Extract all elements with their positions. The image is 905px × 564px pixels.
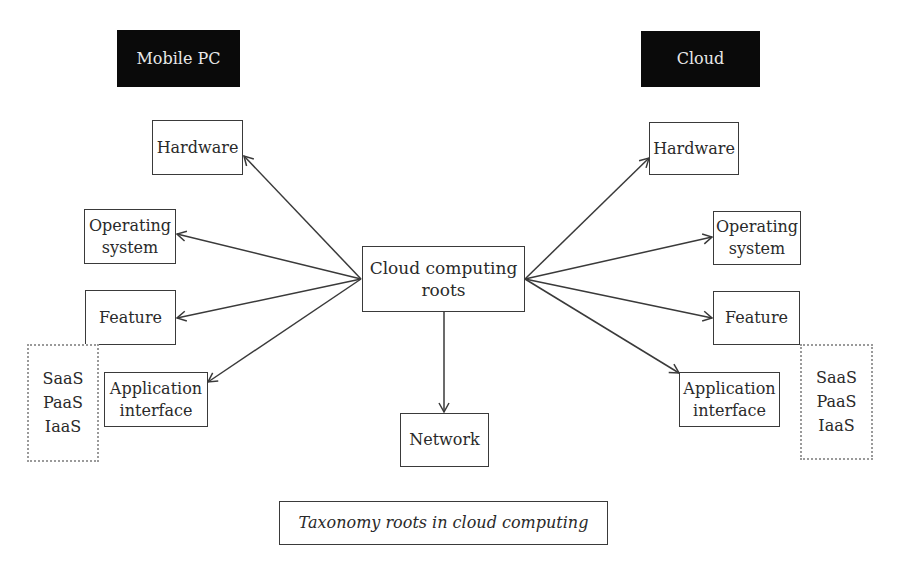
- left-app-interface-node: Application interface: [104, 372, 208, 427]
- right-feature-node: Feature: [713, 291, 800, 345]
- cloud-label: Cloud: [677, 48, 725, 70]
- left-feature-node: Feature: [85, 290, 176, 345]
- cloud-header: Cloud: [641, 31, 760, 87]
- left-service-models: SaaS PaaS IaaS: [27, 344, 99, 462]
- arrow-to-right-os: [525, 237, 712, 279]
- mobile-pc-label: Mobile PC: [136, 48, 220, 70]
- arrow-to-right-feature: [525, 279, 712, 318]
- right-hardware-node: Hardware: [649, 122, 739, 175]
- arrow-to-left-os: [177, 234, 361, 279]
- figure-caption: Taxonomy roots in cloud computing: [279, 501, 608, 545]
- left-hardware-node: Hardware: [152, 120, 243, 175]
- arrow-to-left-feature: [177, 279, 361, 318]
- network-node: Network: [400, 413, 489, 467]
- arrow-to-right-app: [525, 279, 679, 373]
- center-node: Cloud computing roots: [362, 246, 525, 312]
- right-os-node: Operating system: [713, 211, 801, 265]
- left-os-node: Operating system: [84, 209, 176, 264]
- right-app-interface-node: Application interface: [679, 372, 780, 427]
- arrow-to-left-hardware: [244, 156, 361, 279]
- arrow-to-right-hardware: [525, 158, 649, 279]
- right-service-models: SaaS PaaS IaaS: [800, 344, 873, 460]
- mobile-pc-header: Mobile PC: [117, 30, 240, 87]
